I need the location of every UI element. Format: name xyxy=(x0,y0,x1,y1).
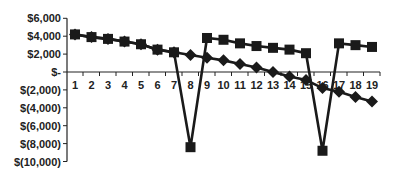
square-marker xyxy=(351,40,361,50)
x-tick-label: 11 xyxy=(234,79,246,91)
series-group xyxy=(69,28,378,155)
square-marker xyxy=(367,42,377,52)
square-marker xyxy=(268,43,278,53)
y-tick-label: $(4,000) xyxy=(20,102,61,114)
square-marker xyxy=(169,47,179,57)
x-tick-label: 10 xyxy=(217,79,229,91)
line-chart: $6,000$4,000$2,000$-$(2,000)$(4,000)$(6,… xyxy=(0,0,393,176)
square-marker xyxy=(235,38,245,48)
x-tick-label: 2 xyxy=(88,79,94,91)
y-tick-label: $- xyxy=(51,66,61,78)
y-tick-label: $6,000 xyxy=(27,12,61,24)
square-marker xyxy=(301,48,311,58)
square-marker xyxy=(70,29,80,39)
x-tick-label: 1 xyxy=(72,79,78,91)
square-marker xyxy=(87,32,97,42)
y-axis: $6,000$4,000$2,000$-$(2,000)$(4,000)$(6,… xyxy=(14,12,67,167)
square-marker xyxy=(202,33,212,43)
square-series-line xyxy=(75,34,372,150)
diamond-marker xyxy=(366,96,378,108)
square-marker xyxy=(334,38,344,48)
diamond-marker xyxy=(218,54,230,66)
y-tick-label: $(6,000) xyxy=(20,120,61,132)
x-tick-label: 8 xyxy=(187,79,193,91)
diamond-marker xyxy=(185,49,197,61)
diamond-marker xyxy=(350,91,362,103)
square-marker xyxy=(318,146,328,156)
x-tick-label: 5 xyxy=(138,79,144,91)
square-marker xyxy=(103,34,113,44)
square-marker xyxy=(120,37,130,47)
y-tick-label: $(8,000) xyxy=(20,138,61,150)
square-marker xyxy=(136,39,146,49)
square-marker xyxy=(186,142,196,152)
square-marker xyxy=(252,41,262,51)
x-tick-label: 4 xyxy=(121,79,128,91)
y-tick-label: $(10,000) xyxy=(14,156,61,168)
square-marker xyxy=(285,45,295,55)
diamond-marker xyxy=(267,66,279,78)
x-tick-label: 3 xyxy=(105,79,111,91)
x-tick-label: 13 xyxy=(267,79,279,91)
x-tick-label: 18 xyxy=(349,79,361,91)
x-tick-label: 12 xyxy=(250,79,262,91)
x-tick-label: 6 xyxy=(154,79,160,91)
x-tick-label: 19 xyxy=(366,79,378,91)
x-tick-label: 9 xyxy=(204,79,210,91)
y-tick-label: $4,000 xyxy=(27,30,61,42)
x-tick-label: 7 xyxy=(171,79,177,91)
square-marker xyxy=(219,35,229,45)
y-tick-label: $2,000 xyxy=(27,48,61,60)
diamond-marker xyxy=(234,58,246,70)
y-tick-label: $(2,000) xyxy=(20,84,61,96)
square-marker xyxy=(153,45,163,55)
